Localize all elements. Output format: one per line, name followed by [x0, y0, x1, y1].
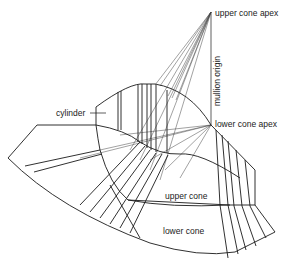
lower-cone-label: lower cone — [163, 227, 204, 236]
diagram-canvas: upper cone apex mullion origin lower con… — [0, 0, 295, 264]
upper-cone-apex-label: upper cone apex — [215, 9, 278, 18]
cylinder-top-edge — [96, 84, 211, 125]
cone-mullions — [211, 125, 275, 258]
cylinder-label: cylinder — [56, 109, 85, 118]
lower-apex-rays — [80, 125, 211, 178]
cone-geometry-drawing — [0, 0, 295, 264]
left-wing — [8, 125, 96, 158]
upper-cone-label: upper cone — [165, 192, 208, 201]
lower-cone-apex-label: lower cone apex — [215, 120, 277, 129]
mullion-origin-label: mullion origin — [213, 56, 222, 106]
